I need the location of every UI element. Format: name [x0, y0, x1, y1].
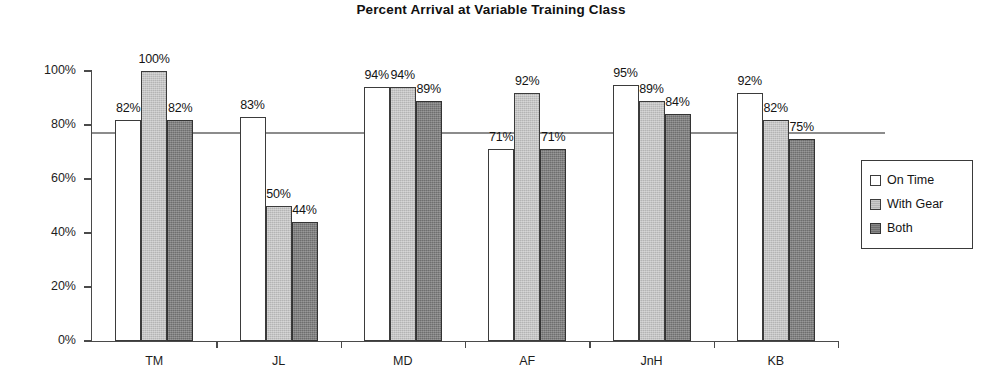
bar-value-label: 71% [529, 130, 577, 144]
chart-title: Percent Arrival at Variable Training Cla… [0, 2, 982, 17]
bar-value-label: 75% [778, 120, 826, 134]
y-axis-tick [84, 286, 92, 287]
bar[interactable] [240, 117, 266, 341]
legend-swatch-on-time [870, 175, 881, 186]
y-axis-tick-label: 20% [30, 279, 76, 293]
bar[interactable] [416, 101, 442, 341]
bar-value-label: 82% [156, 101, 204, 115]
bar-value-label: 100% [130, 52, 178, 66]
x-axis-category-label: AF [465, 354, 589, 368]
legend-label-with-gear: With Gear [887, 197, 943, 211]
y-axis-tick [84, 232, 92, 233]
bar-value-label: 44% [281, 203, 329, 217]
bar[interactable] [266, 206, 292, 341]
x-axis-tick [341, 341, 342, 348]
bar-value-label: 84% [654, 95, 702, 109]
bar[interactable] [737, 93, 763, 341]
x-axis-category-label: KB [714, 354, 838, 368]
y-axis-tick [84, 340, 92, 341]
bar-value-label: 82% [752, 101, 800, 115]
legend-label-on-time: On Time [887, 173, 934, 187]
bar[interactable] [763, 120, 789, 341]
bar-value-label: 92% [503, 74, 551, 88]
x-axis-tick [714, 341, 715, 348]
x-axis-tick [216, 341, 217, 348]
y-axis-tick-label: 100% [30, 63, 76, 77]
chart-legend: On Time With Gear Both [861, 160, 973, 249]
bar[interactable] [789, 139, 815, 342]
legend-label-both: Both [887, 221, 913, 235]
x-axis-category-label: JL [216, 354, 340, 368]
x-axis-tick [589, 341, 590, 348]
bar[interactable] [167, 120, 193, 341]
bar[interactable] [364, 87, 390, 341]
legend-item-on-time[interactable]: On Time [870, 168, 965, 192]
y-axis-tick [84, 124, 92, 125]
y-axis-tick-label: 0% [30, 333, 76, 347]
bar-chart: Percent Arrival at Variable Training Cla… [0, 0, 982, 391]
bar[interactable] [639, 101, 665, 341]
x-axis-category-label: TM [92, 354, 216, 368]
bar[interactable] [665, 114, 691, 341]
bar-value-label: 94% [379, 68, 427, 82]
bar-value-label: 92% [726, 74, 774, 88]
bar[interactable] [292, 222, 318, 341]
bar-value-label: 83% [229, 98, 277, 112]
bar[interactable] [613, 85, 639, 342]
bar-value-label: 89% [405, 82, 453, 96]
bar-value-label: 50% [255, 187, 303, 201]
y-axis-tick-label: 80% [30, 117, 76, 131]
bar[interactable] [488, 149, 514, 341]
bar[interactable] [115, 120, 141, 341]
bar-value-label: 71% [477, 130, 525, 144]
y-axis-tick-label: 40% [30, 225, 76, 239]
legend-item-both[interactable]: Both [870, 216, 965, 240]
x-axis-tick [838, 341, 839, 348]
legend-swatch-with-gear [870, 199, 881, 210]
x-axis-tick [465, 341, 466, 348]
y-axis-tick [84, 178, 92, 179]
legend-swatch-both [870, 223, 881, 234]
bar-value-label: 89% [628, 82, 676, 96]
x-axis-category-label: JnH [589, 354, 713, 368]
bar-value-label: 95% [602, 66, 650, 80]
y-axis-tick-label: 60% [30, 171, 76, 185]
bar[interactable] [390, 87, 416, 341]
legend-item-with-gear[interactable]: With Gear [870, 192, 965, 216]
bar[interactable] [540, 149, 566, 341]
y-axis-tick [84, 70, 92, 71]
x-axis-category-label: MD [341, 354, 465, 368]
bar-value-label: 82% [104, 101, 152, 115]
